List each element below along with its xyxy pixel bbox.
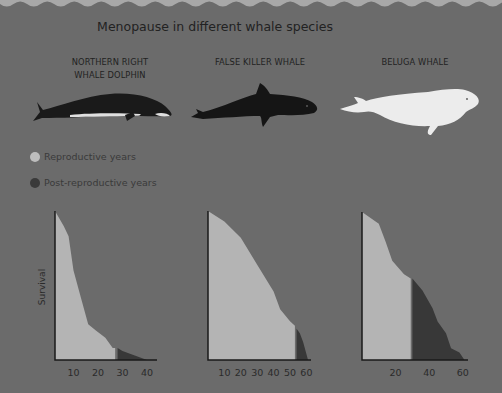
- x-tick-label: 10: [218, 367, 230, 378]
- post-reproductive-area: [118, 348, 147, 360]
- x-tick-label: 30: [251, 367, 263, 378]
- reproductive-area: [208, 211, 295, 360]
- x-tick-label: 60: [300, 367, 312, 378]
- x-tick-label: 40: [268, 367, 280, 378]
- survival-charts: 10203040 102030405060 204060: [0, 0, 502, 393]
- x-tick-label: 50: [284, 367, 296, 378]
- x-tick-label: 30: [116, 367, 128, 378]
- x-tick-label: 40: [423, 367, 435, 378]
- chart-beluga-whale: 204060: [362, 212, 469, 378]
- chart-false-killer-whale: 102030405060: [208, 211, 312, 378]
- x-tick-label: 60: [457, 367, 469, 378]
- x-tick-label: 40: [141, 367, 153, 378]
- x-tick-label: 20: [92, 367, 104, 378]
- post-reproductive-area: [297, 329, 308, 360]
- post-reproductive-area: [412, 279, 464, 360]
- reproductive-area: [55, 211, 115, 360]
- x-tick-label: 10: [67, 367, 79, 378]
- reproductive-area: [362, 212, 411, 360]
- chart-northern-right-whale-dolphin: 10203040: [55, 211, 157, 378]
- x-tick-label: 20: [390, 367, 402, 378]
- x-tick-label: 20: [235, 367, 247, 378]
